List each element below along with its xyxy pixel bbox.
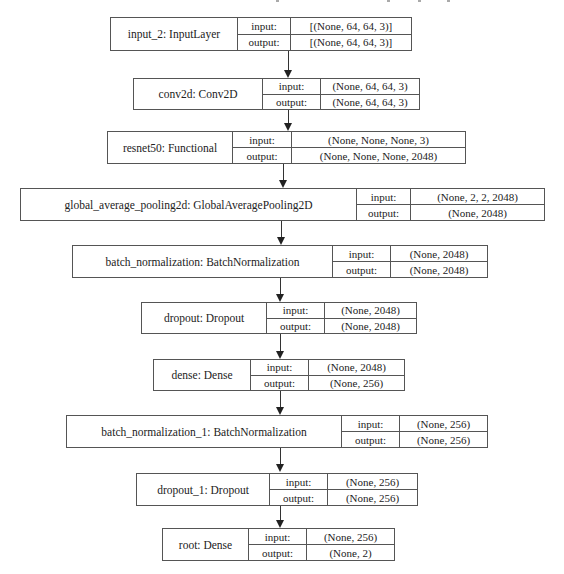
layer-node-root: root: Dense input: output: (None, 256) (… [162, 528, 395, 561]
input-label: input: [357, 189, 410, 205]
output-shape: (None, 2048) [391, 262, 487, 277]
output-shape: (None, 2048) [411, 205, 544, 220]
output-label: output: [342, 432, 399, 447]
arrow-down-icon [276, 520, 284, 528]
input-shape: (None, 2048) [309, 360, 404, 376]
layer-node-dropout: dropout: Dropout input: output: (None, 2… [141, 302, 417, 334]
input-label: input: [263, 79, 320, 95]
output-shape: (None, 2) [307, 545, 394, 560]
layer-name: batch_normalization: BatchNormalization [73, 246, 333, 277]
edge-line [280, 278, 281, 295]
input-label: input: [251, 360, 308, 376]
output-shape: (None, 64, 64, 3) [321, 95, 419, 110]
input-shape: (None, 256) [400, 416, 487, 432]
cropped-fragment [387, 0, 390, 2]
edge-line [280, 334, 281, 352]
layer-name: dropout: Dropout [142, 303, 267, 333]
layer-name: resnet50: Functional [108, 132, 233, 163]
input-shape: (None, 2048) [325, 303, 416, 319]
layer-name: batch_normalization_1: BatchNormalizatio… [67, 416, 342, 447]
layer-node-conv2d: conv2d: Conv2D input: output: (None, 64,… [133, 78, 420, 110]
layer-name: input_2: InputLayer [111, 18, 238, 50]
input-label: input: [267, 303, 324, 319]
input-label: input: [233, 132, 291, 148]
arrow-down-icon [276, 407, 284, 415]
layer-name: dense: Dense [154, 360, 251, 390]
output-label: output: [238, 35, 290, 51]
input-label: input: [249, 529, 306, 545]
input-shape: (None, 256) [307, 529, 394, 545]
output-label: output: [233, 148, 291, 163]
input-label: input: [270, 474, 327, 490]
cropped-fragment [418, 0, 421, 2]
edge-line [281, 221, 282, 238]
output-label: output: [270, 490, 327, 505]
arrow-down-icon [276, 294, 284, 302]
edge-line [280, 448, 281, 465]
edge-line [280, 391, 281, 408]
edge-line [288, 110, 289, 124]
output-label: output: [249, 545, 306, 560]
input-shape: (None, 2, 2, 2048) [411, 189, 544, 205]
layer-name: dropout_1: Dropout [137, 474, 270, 505]
output-shape: (None, 256) [400, 432, 487, 447]
layer-node-dense: dense: Dense input: output: (None, 2048)… [153, 359, 405, 391]
layer-name: conv2d: Conv2D [134, 79, 263, 109]
output-shape: [(None, 64, 64, 3)] [291, 35, 411, 51]
input-shape: [(None, 64, 64, 3)] [291, 18, 411, 35]
output-label: output: [251, 376, 308, 391]
output-label: output: [263, 95, 320, 110]
arrow-down-icon [277, 237, 285, 245]
edge-line [288, 51, 289, 71]
output-shape: (None, 256) [309, 376, 404, 391]
input-shape: (None, None, None, 3) [292, 132, 465, 148]
cropped-fragment [276, 0, 279, 2]
output-shape: (None, 2048) [325, 319, 416, 334]
output-label: output: [357, 205, 410, 220]
input-shape: (None, 2048) [391, 246, 487, 262]
input-shape: (None, 256) [328, 474, 417, 490]
arrow-down-icon [284, 123, 292, 131]
arrow-down-icon [276, 464, 284, 472]
layer-node-dropout_1: dropout_1: Dropout input: output: (None,… [136, 473, 418, 506]
layer-node-batch_normalization: batch_normalization: BatchNormalization … [72, 245, 488, 278]
arrow-down-icon [284, 70, 292, 78]
layer-name: root: Dense [163, 529, 249, 560]
layer-name: global_average_pooling2d: GlobalAverageP… [21, 189, 357, 220]
output-label: output: [267, 319, 324, 334]
output-shape: (None, None, None, 2048) [292, 148, 465, 163]
layer-node-input_2: input_2: InputLayer input: output: [(Non… [110, 17, 412, 51]
output-shape: (None, 256) [328, 490, 417, 505]
cropped-fragment [447, 0, 450, 2]
input-label: input: [333, 246, 390, 262]
input-label: input: [342, 416, 399, 432]
output-label: output: [333, 262, 390, 277]
arrow-down-icon [276, 351, 284, 359]
layer-node-global_average_pooling2d: global_average_pooling2d: GlobalAverageP… [20, 188, 545, 221]
edge-line [283, 164, 284, 181]
layer-node-resnet50: resnet50: Functional input: output: (Non… [107, 131, 466, 164]
layer-node-batch_normalization_1: batch_normalization_1: BatchNormalizatio… [66, 415, 488, 448]
input-shape: (None, 64, 64, 3) [321, 79, 419, 95]
arrow-down-icon [279, 180, 287, 188]
input-label: input: [238, 18, 290, 35]
edge-line [280, 506, 281, 521]
